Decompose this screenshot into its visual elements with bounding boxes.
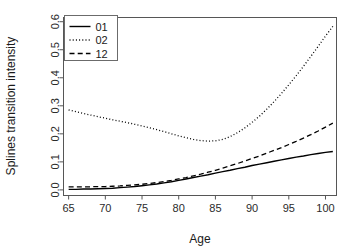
x-tick-label: 100 [316,202,334,214]
series-line-12 [69,123,333,187]
x-tick-label: 95 [283,202,295,214]
legend-label-12: 12 [96,48,108,60]
chart-figure: 0.00.10.20.30.40.50.6 65707580859095100 … [0,0,355,252]
x-tick-label: 75 [136,202,148,214]
y-tick-label: 0.0 [50,182,62,197]
y-tick-label: 0.4 [50,70,62,85]
legend-label-02: 02 [96,34,108,46]
y-axis: 0.00.10.20.30.40.50.6 [50,14,64,197]
splines-transition-intensity-chart: 0.00.10.20.30.40.50.6 65707580859095100 … [0,0,355,252]
x-tick-label: 85 [209,202,221,214]
x-tick-label: 80 [173,202,185,214]
x-axis: 65707580859095100 [63,196,337,214]
y-tick-label: 0.6 [50,14,62,29]
y-tick-label: 0.5 [50,42,62,57]
x-tick-label: 90 [246,202,258,214]
chart-legend: 010212 [65,16,118,61]
legend-label-01: 01 [96,21,108,33]
x-tick-label: 70 [99,202,111,214]
x-tick-label: 65 [63,202,75,214]
y-axis-title: Splines transition intensity [4,37,18,176]
y-tick-label: 0.2 [50,126,62,141]
y-tick-label: 0.3 [50,98,62,113]
y-tick-label: 0.1 [50,154,62,169]
series-line-01 [69,151,333,189]
x-axis-title: Age [189,232,211,246]
